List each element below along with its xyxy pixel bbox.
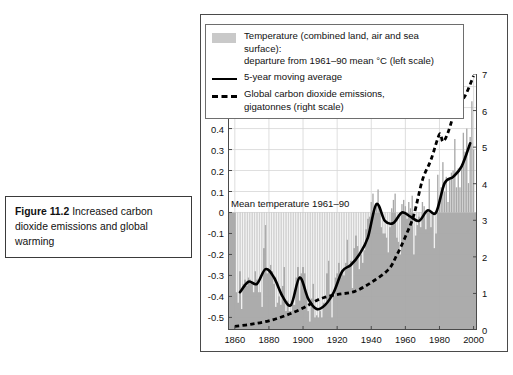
dashed-line-icon xyxy=(212,90,238,104)
mean-temperature-annotation: Mean temperature 1961–90 xyxy=(231,198,349,209)
legend-item-temperature-label: Temperature (combined land, air and sea … xyxy=(244,30,457,68)
y-tick-left: -0.1 xyxy=(196,228,224,239)
y-tick-left: -0.4 xyxy=(196,291,224,302)
y-tick-right: 3 xyxy=(482,215,500,226)
legend-avg-line1: 5-year moving average xyxy=(244,71,342,82)
gray-swatch-icon xyxy=(212,32,238,46)
legend-item-moving-average-label: 5-year moving average xyxy=(244,71,342,84)
y-tick-right: 4 xyxy=(482,178,500,189)
y-tick-right: 7 xyxy=(482,69,500,80)
y-tick-left: -0.2 xyxy=(196,249,224,260)
y-tick-right: 6 xyxy=(482,105,500,116)
y-tick-right: 2 xyxy=(482,251,500,262)
y-tick-left: -0.3 xyxy=(196,270,224,281)
y-tick-right: 5 xyxy=(482,142,500,153)
y-tick-left: 0.2 xyxy=(196,165,224,176)
y-tick-left: 0 xyxy=(196,207,224,218)
y-tick-right: 1 xyxy=(482,288,500,299)
figure-caption: Figure 11.2 Increased carbon dioxide emi… xyxy=(5,196,192,258)
legend-co2-line2: gigatonnes (right scale) xyxy=(244,101,344,112)
x-tick: 2000 xyxy=(454,334,494,345)
legend-item-temperature: Temperature (combined land, air and sea … xyxy=(212,30,457,68)
legend-temp-line2: departure from 1961–90 mean °C (left sca… xyxy=(244,55,434,66)
caption-number: Figure 11.2 xyxy=(15,206,69,217)
y-tick-left: 0.4 xyxy=(196,123,224,134)
legend-item-co2: Global carbon dioxide emissions, gigaton… xyxy=(212,88,457,113)
solid-line-icon xyxy=(212,73,238,87)
y-tick-left: 0.1 xyxy=(196,186,224,197)
y-tick-left: 0.3 xyxy=(196,144,224,155)
legend-temp-line1: Temperature (combined land, air and sea … xyxy=(244,30,419,54)
figure-container: Figure 11.2 Increased carbon dioxide emi… xyxy=(0,0,513,375)
legend-item-co2-label: Global carbon dioxide emissions, gigaton… xyxy=(244,88,385,113)
chart-legend: Temperature (combined land, air and sea … xyxy=(205,24,464,119)
legend-co2-line1: Global carbon dioxide emissions, xyxy=(244,88,385,99)
y-tick-left: -0.5 xyxy=(196,312,224,323)
legend-item-moving-average: 5-year moving average xyxy=(212,71,457,85)
